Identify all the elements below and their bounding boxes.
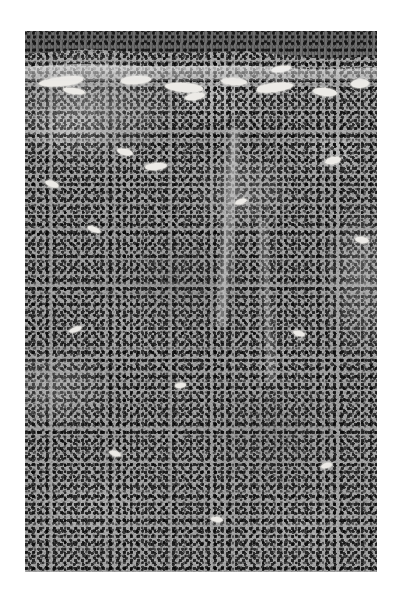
micrograph-plate: [25, 31, 377, 572]
photographic-vignette: [25, 31, 377, 572]
page-root: [0, 0, 398, 597]
